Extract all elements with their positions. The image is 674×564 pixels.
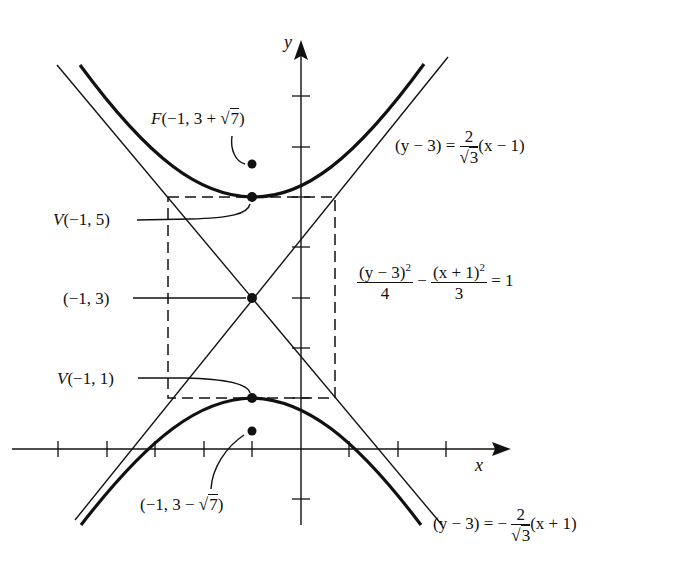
hyperbola-diagram [0, 0, 674, 564]
hyperbola-upper-branch [80, 64, 424, 197]
x-axis-label: x [475, 456, 483, 474]
focus-lower-label: (−1, 3 − √7) [140, 496, 223, 513]
focus-upper-leader [232, 136, 245, 164]
vertex-lower-leader [138, 378, 250, 393]
vertex-lower-label: V(−1, 1) [57, 370, 114, 387]
vertex-upper-point [247, 192, 257, 202]
focus-lower-point [248, 427, 257, 436]
vertex-lower-point [247, 393, 257, 403]
center-label: (−1, 3) [63, 290, 109, 307]
vertex-upper-label: V(−1, 5) [53, 211, 110, 228]
hyperbola-equation: (y − 3)24 − (x + 1)23 = 1 [357, 262, 514, 302]
asymptote-lower-equation: (y − 3) = − 2√3(x + 1) [433, 506, 577, 544]
asymptote-upper-equation: (y − 3) = 2√3(x − 1) [395, 128, 525, 166]
y-axis-label: y [284, 33, 292, 51]
focus-upper-label: F(−1, 3 + √7) [151, 110, 245, 127]
center-point [247, 293, 257, 303]
hyperbola-lower-branch [81, 398, 421, 525]
focus-upper-point [248, 160, 257, 169]
vertex-upper-leader [137, 204, 250, 220]
focus-lower-leader [211, 435, 244, 489]
